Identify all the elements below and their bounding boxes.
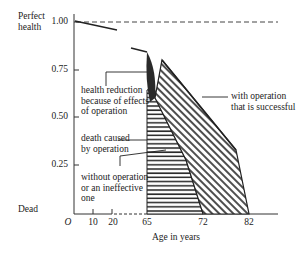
- annotation-death-caused: death caused by operation: [81, 133, 130, 154]
- annotation-without-operation: without operation or an ineffective one: [81, 172, 148, 204]
- y-tick-0.25: 0.25: [38, 159, 68, 169]
- x-tick-10: 10: [83, 217, 103, 227]
- y-tick-0.50: 0.50: [38, 111, 68, 121]
- x-tick-origin: O: [58, 217, 78, 227]
- y-tick-1.00: 1.00: [38, 16, 68, 26]
- x-tick-65: 65: [137, 217, 157, 227]
- y-tick-0.75: 0.75: [38, 64, 68, 74]
- x-tick-72: 72: [193, 217, 213, 227]
- x-tick-20: 20: [103, 217, 123, 227]
- annotation-with-operation: with operation that is successful: [231, 91, 295, 112]
- x-axis-title: Age in years: [152, 232, 200, 243]
- x-tick-82: 82: [239, 217, 259, 227]
- annotation-health-reduction: health reduction because of effects of o…: [81, 85, 149, 117]
- dead-label: Dead: [18, 204, 38, 215]
- health-decline-late: [131, 48, 147, 52]
